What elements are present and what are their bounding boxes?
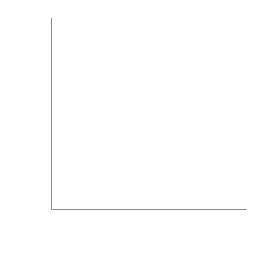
axes-group: [52, 18, 248, 210]
plot-canvas: [0, 0, 263, 256]
scatter-plot-figure: [0, 0, 263, 256]
axis-spines: [52, 18, 248, 210]
